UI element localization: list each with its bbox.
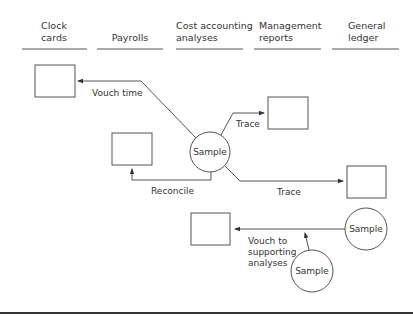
general-ledger-box [347,166,386,198]
trace-ledger-label: Trace [276,187,301,197]
sample-analyses-arrow [305,233,309,250]
header-line2: Payrolls [112,32,149,43]
sample-label: Sample [295,266,329,276]
sample-node-main: Sample [190,132,230,172]
header-line2: cards [41,32,67,43]
header-line1: Clock [41,20,67,31]
header-line2: reports [259,32,293,43]
vouch-supporting-label-2: supporting [248,247,296,257]
reconcile-arrow [132,169,211,180]
sample-node-analyses: Sample [291,250,333,292]
trace-ledger-arrow [225,166,343,181]
header-line2: ledger [348,32,378,43]
column-header-general-ledger: General ledger [332,20,399,49]
header-line1: General [348,20,385,31]
trace-reports-label: Trace [235,119,260,129]
sample-label: Sample [193,147,227,157]
column-header-clock-cards: Clock cards [22,20,87,49]
column-header-payrolls: Payrolls [97,32,163,49]
clock-card-box [35,65,75,97]
header-line2: analyses [176,32,218,43]
reconcile-label: Reconcile [151,186,194,196]
payroll-box [112,133,152,165]
management-report-box [268,97,308,129]
vouch-supporting-label-3: analyses [248,258,288,268]
vouch-supporting-label-1: Vouch to [248,236,288,246]
column-header-management-reports: Management reports [254,20,322,49]
sample-node-ledger: Sample [345,208,387,250]
sample-label: Sample [349,224,383,234]
column-header-cost-accounting-analyses: Cost accounting analyses [176,20,253,49]
cost-analysis-box [191,213,230,245]
audit-trail-diagram: Clock cards Payrolls Cost accounting ana… [0,0,413,317]
header-line1: Management [259,20,322,31]
header-line1: Cost accounting [176,20,253,31]
vouch-time-label: Vouch time [92,88,143,98]
